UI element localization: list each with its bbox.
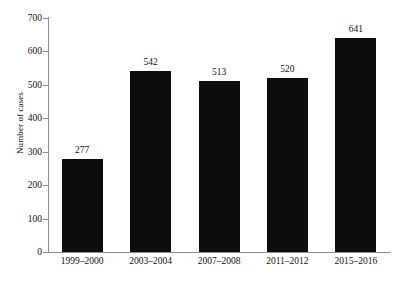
y-tick-label: 600 bbox=[0, 46, 42, 56]
y-tick-mark bbox=[43, 252, 48, 253]
bar bbox=[335, 38, 376, 252]
x-tick-label: 2015–2016 bbox=[316, 256, 396, 267]
bar-value-label: 277 bbox=[52, 145, 112, 155]
y-tick-label: 400 bbox=[0, 113, 42, 123]
bar-value-label: 641 bbox=[326, 24, 386, 34]
bar bbox=[62, 159, 103, 252]
y-tick-label: 300 bbox=[0, 147, 42, 157]
x-axis-line bbox=[48, 252, 390, 253]
bar-series bbox=[48, 18, 390, 252]
y-tick-label: 0 bbox=[0, 247, 42, 257]
bar-value-label: 542 bbox=[121, 57, 181, 67]
bar-value-label: 513 bbox=[189, 67, 249, 77]
y-tick-label: 100 bbox=[0, 214, 42, 224]
bar-value-label: 520 bbox=[257, 64, 317, 74]
bar bbox=[267, 78, 308, 252]
y-tick-label: 200 bbox=[0, 180, 42, 190]
y-tick-label: 700 bbox=[0, 13, 42, 23]
y-tick-label: 500 bbox=[0, 80, 42, 90]
bar bbox=[199, 81, 240, 252]
bar bbox=[130, 71, 171, 252]
bar-chart: Number of cases 0100200300400500600700 2… bbox=[0, 0, 404, 292]
